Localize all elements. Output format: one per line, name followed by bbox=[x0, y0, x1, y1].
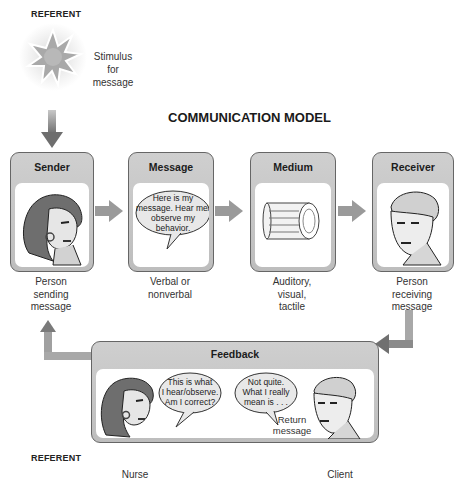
nurse-label: Nurse bbox=[110, 469, 160, 482]
caption-line: visual, bbox=[250, 289, 334, 302]
receiver-header: Receiver bbox=[373, 153, 453, 181]
stimulus-line: message bbox=[86, 76, 140, 89]
caption-line: Verbal or bbox=[128, 276, 212, 289]
return-message-label: Return message bbox=[262, 414, 322, 436]
bubble-line: This is what bbox=[168, 377, 214, 387]
stimulus-burst-icon bbox=[18, 22, 88, 92]
referent-label-top: REFERENT bbox=[31, 9, 81, 19]
medium-box: Medium bbox=[250, 152, 336, 272]
woman-face-icon bbox=[15, 183, 89, 267]
diagram-title: COMMUNICATION MODEL bbox=[168, 110, 331, 125]
message-box: Message Here is my message. Hear me/ obs… bbox=[128, 152, 214, 272]
bubble-line: behavior. bbox=[156, 223, 191, 233]
bubble-line: Here is my bbox=[153, 193, 194, 203]
caption-line: Person bbox=[10, 276, 92, 289]
stimulus-label: Stimulus for message bbox=[86, 50, 140, 89]
arrow-right-icon bbox=[215, 200, 245, 222]
caption-line: Auditory, bbox=[250, 276, 334, 289]
bubble-line: message. Hear me/ bbox=[136, 203, 209, 213]
nurse-face-icon bbox=[101, 378, 153, 437]
caption-line: Person bbox=[372, 276, 452, 289]
bubble-line: observe my bbox=[151, 213, 196, 223]
message-caption: Verbal or nonverbal bbox=[128, 276, 212, 301]
speech-bubble-icon: Here is my message. Hear me/ observe my … bbox=[133, 183, 209, 267]
bubble-line: Not quite. bbox=[248, 377, 284, 387]
caption-line: nonverbal bbox=[128, 289, 212, 302]
arrow-return-in-icon bbox=[375, 310, 415, 360]
bubble-line: I hear/observe. bbox=[162, 387, 219, 397]
bubble-line: mean is . . . bbox=[244, 397, 288, 407]
stimulus-line: Stimulus bbox=[86, 50, 140, 63]
receiver-caption: Person receiving message bbox=[372, 276, 452, 314]
feedback-box: Feedback This is what I hear/observe. Am… bbox=[91, 341, 379, 443]
bubble-line: What I really bbox=[242, 387, 290, 397]
return-line: Return bbox=[262, 414, 322, 425]
cylinder-medium-icon bbox=[255, 183, 331, 267]
medium-caption: Auditory, visual, tactile bbox=[250, 276, 334, 314]
message-header: Message bbox=[129, 153, 213, 181]
caption-line: sending bbox=[10, 289, 92, 302]
client-label: Client bbox=[315, 469, 365, 482]
referent-label-bottom: REFERENT bbox=[31, 453, 81, 463]
bubble-line: Am I correct? bbox=[165, 397, 216, 407]
sender-box: Sender bbox=[10, 152, 94, 272]
medium-header: Medium bbox=[251, 153, 335, 181]
stimulus-line: for bbox=[86, 63, 140, 76]
arrow-right-icon bbox=[338, 200, 368, 222]
receiver-box: Receiver bbox=[372, 152, 454, 272]
sender-caption: Person sending message bbox=[10, 276, 92, 314]
caption-line: tactile bbox=[250, 301, 334, 314]
feedback-header: Feedback bbox=[92, 342, 378, 366]
return-line: message bbox=[262, 425, 322, 436]
man-face-icon bbox=[377, 183, 449, 267]
arrow-return-out-icon bbox=[38, 318, 94, 362]
sender-header: Sender bbox=[11, 153, 93, 181]
feedback-scene: This is what I hear/observe. Am I correc… bbox=[96, 369, 374, 439]
arrow-right-icon bbox=[95, 200, 125, 222]
caption-line: message bbox=[10, 301, 92, 314]
arrow-down-icon bbox=[40, 110, 64, 152]
caption-line: receiving bbox=[372, 289, 452, 302]
